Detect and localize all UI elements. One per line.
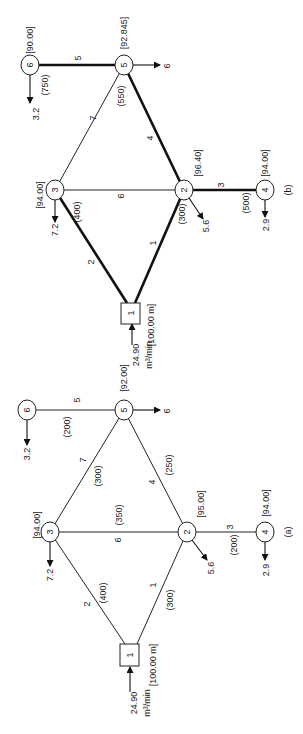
node-label: 3	[45, 529, 55, 534]
node-label: 1	[126, 310, 136, 315]
node-label: 4	[260, 187, 270, 192]
pipe-diameter: (550)	[116, 85, 126, 106]
pipe-label: 6	[113, 537, 123, 542]
head-label: [100.00 m]	[146, 304, 156, 347]
pipe-label: 4	[145, 135, 155, 140]
demand-value: 3.2	[22, 448, 32, 461]
head-label: [94.00]	[35, 181, 45, 209]
node-label: 1	[125, 652, 135, 657]
demand-value: 5.6	[206, 562, 216, 575]
demand-value: 3.2	[31, 108, 41, 121]
pipe-label: 1	[148, 582, 158, 587]
node-label: 6	[22, 407, 32, 412]
node-label: 4	[260, 529, 270, 534]
inflow-unit: m³/min	[142, 689, 152, 717]
head-label: [92.00]	[119, 364, 129, 392]
demand-value: 7.2	[50, 224, 60, 237]
demand-value: 6	[162, 408, 172, 413]
pipe-label: 1	[148, 240, 158, 245]
head-label: [96.40]	[193, 149, 203, 177]
head-label: [94.00]	[260, 149, 270, 177]
pipe-7	[55, 65, 124, 190]
pipe-diameter: (750)	[40, 74, 50, 95]
pipe-diameter: (400)	[72, 201, 82, 222]
demand-value: 6	[162, 63, 172, 68]
pipe-diameter: (500)	[241, 192, 251, 213]
pipe-label: 7	[78, 457, 88, 462]
node-label: 2	[179, 187, 189, 192]
pipe-diameter: (200)	[62, 416, 72, 437]
pipe-label: 4	[147, 479, 157, 484]
pipe-4	[124, 65, 184, 190]
pipe-diameter: (300)	[93, 465, 103, 486]
node-label: 3	[50, 187, 60, 192]
panel-label: (b)	[283, 184, 293, 195]
node-label: 2	[182, 529, 192, 534]
pipe-diameter: (350)	[114, 504, 124, 525]
panel-label: (a)	[283, 526, 293, 537]
head-label: [92.845]	[119, 17, 129, 50]
pipe-label: 5	[72, 397, 82, 402]
pipe-diameter: (300)	[177, 203, 187, 224]
pipe-diameter: (400)	[98, 582, 108, 603]
head-label: [94.00]	[32, 511, 42, 539]
demand-value: 5.6	[201, 220, 211, 233]
panel-a: 6 5 3 2 4 1 [92.00] [94.00] [95.00] [94.…	[18, 364, 293, 717]
node-label: 6	[25, 62, 35, 67]
pipe-diameter: (250)	[164, 454, 174, 475]
head-label: [100.00 m]	[148, 644, 158, 687]
inflow-value: 24.90	[131, 344, 141, 367]
pipe-2	[50, 532, 125, 644]
demand-arrow-icon	[192, 540, 207, 560]
pipe-1	[137, 532, 187, 644]
pipe-label: 5	[73, 55, 83, 60]
pipe-2	[55, 190, 127, 303]
pipe-label: 3	[225, 524, 235, 529]
demand-arrow-icon	[189, 198, 203, 219]
pipe-label: 3	[216, 182, 226, 187]
inflow-value: 24.90	[129, 692, 139, 715]
pipe-label: 2	[86, 259, 96, 264]
pipe-4	[124, 410, 187, 532]
pipe-diameter: (200)	[229, 534, 239, 555]
pipe-diameter: (300)	[165, 589, 175, 610]
demand-value: 2.9	[261, 219, 271, 232]
demand-value: 2.9	[261, 564, 271, 577]
node-label: 5	[119, 407, 129, 412]
node-label: 5	[119, 62, 129, 67]
head-label: [95.00]	[196, 490, 206, 518]
pipe-network-figure: 6 5 3 2 4 1 [90.00] [92.845] [94.00] [96…	[0, 0, 303, 734]
inflow-unit: m³/min	[144, 341, 154, 369]
pipe-label: 7	[88, 115, 98, 120]
pipe-label: 6	[116, 193, 126, 198]
head-label: [94.00]	[261, 489, 271, 517]
head-label: [90.00]	[25, 26, 35, 54]
pipe-label: 2	[82, 601, 92, 606]
panel-b: 6 5 3 2 4 1 [90.00] [92.845] [94.00] [96…	[21, 17, 293, 369]
demand-value: 7.2	[45, 569, 55, 582]
